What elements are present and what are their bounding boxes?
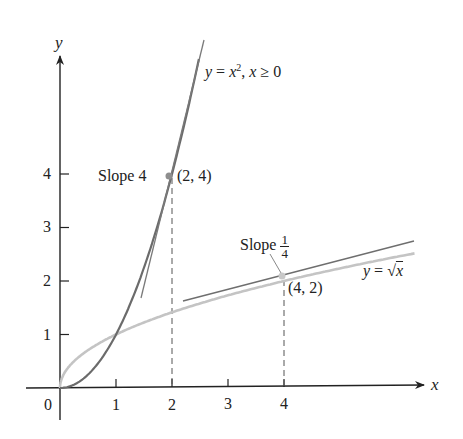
x-tick-label-3: 3 (224, 396, 232, 412)
point-4-2 (279, 273, 286, 280)
parabola-label: yy = = x2, x ≥ 0 (205, 64, 281, 80)
point-2-4-label: (2, 4) (177, 168, 212, 184)
slope-4-label: Slope 4 (98, 168, 146, 184)
x-tick-label-4: 4 (280, 396, 288, 412)
y-tick-label-2: 2 (43, 273, 51, 289)
origin-label: 0 (44, 397, 52, 413)
x-tick-label-2: 2 (168, 397, 176, 413)
parabola-curve (60, 59, 199, 388)
point-2-4 (166, 173, 173, 180)
point-4-2-label: (4, 2) (288, 280, 323, 296)
x-axis-label: x (431, 376, 439, 393)
sqrt-curve (60, 253, 415, 388)
slope-quarter-label: Slope 14 (240, 233, 289, 260)
y-axis-label: y (55, 34, 63, 51)
x-axis (26, 385, 424, 388)
y-tick-label-4: 4 (43, 166, 51, 182)
y-tick-label-3: 3 (43, 219, 51, 235)
sqrt-label: y = √x (363, 263, 403, 279)
x-tick-label-1: 1 (112, 397, 120, 413)
y-tick-label-1: 1 (43, 327, 51, 343)
function-inverse-slopes-diagram: y x 0 1 2 3 4 1 2 3 4 yy = = x2, x ≥ 0 y… (0, 0, 463, 439)
